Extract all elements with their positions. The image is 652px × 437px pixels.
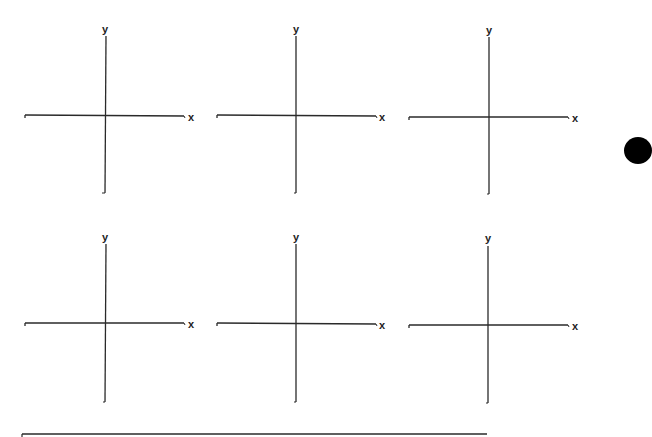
- bottom-rule-line: [0, 0, 631, 437]
